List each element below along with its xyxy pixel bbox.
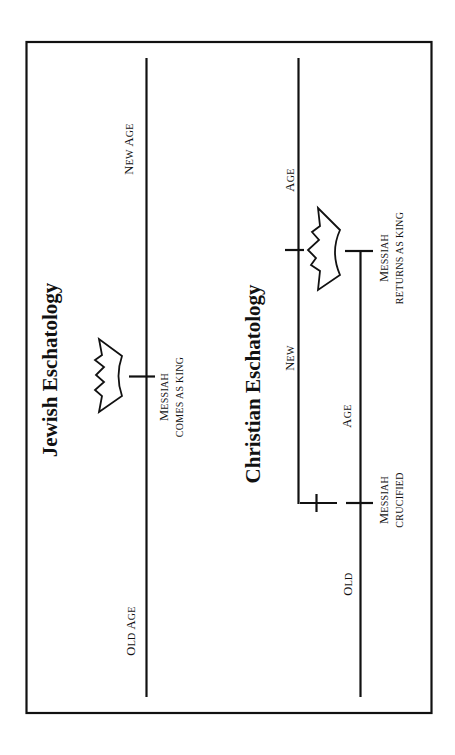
jewish-old-age-label: OLD AGE: [124, 606, 138, 655]
christian-crucified-label-line1: MESSIAH: [377, 476, 391, 524]
crown-icon: [308, 208, 340, 290]
christian-new-label: NEW: [283, 345, 297, 371]
jewish-new-age-label: NEW AGE: [122, 123, 136, 174]
jewish-eschatology-title: Jewish Eschatology: [38, 282, 62, 457]
eschatology-diagram: Jewish Eschatology NEW AGE OLD AGE MESSI…: [0, 0, 455, 755]
crown-icon: [95, 339, 122, 412]
christian-old-label: OLD: [341, 572, 355, 595]
jewish-eschatology-section: Jewish Eschatology NEW AGE OLD AGE MESSI…: [38, 58, 185, 697]
christian-return-label-line2: RETURNS AS KING: [394, 212, 405, 304]
diagram-canvas: Jewish Eschatology NEW AGE OLD AGE MESSI…: [0, 0, 455, 755]
jewish-messiah-label-line1: MESSIAH: [157, 373, 171, 421]
christian-age-label-old: AGE: [340, 404, 354, 427]
cross-icon: [300, 494, 337, 512]
christian-return-label-line1: MESSIAH: [377, 234, 391, 282]
christian-crucified-label-line2: CRUCIFIED: [394, 472, 405, 527]
jewish-messiah-label-line2: COMES AS KING: [174, 357, 185, 438]
diagram-frame: [27, 42, 432, 713]
christian-eschatology-section: Christian Eschatology AGE NEW AGE OLD ME…: [241, 58, 405, 697]
christian-age-label-new: AGE: [283, 168, 297, 191]
christian-eschatology-title: Christian Eschatology: [241, 284, 265, 483]
